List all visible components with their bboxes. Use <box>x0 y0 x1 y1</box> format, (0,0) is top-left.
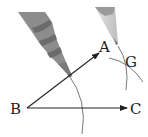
point-label-g: G <box>125 53 137 71</box>
point-label-a: A <box>98 38 110 56</box>
point-label-b: B <box>10 100 21 118</box>
left-pencil-icon <box>18 12 72 77</box>
point-label-c: C <box>130 100 141 118</box>
compass-arc-left <box>68 74 83 134</box>
angle-construction-diagram: A B C G <box>0 0 148 137</box>
